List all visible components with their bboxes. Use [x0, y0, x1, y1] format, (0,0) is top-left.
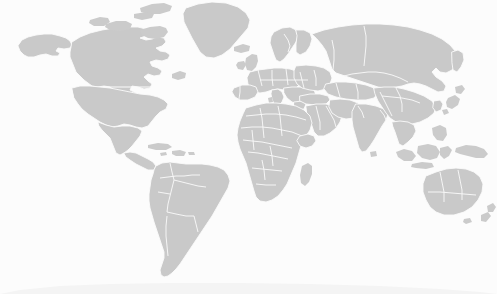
region-turkey	[300, 94, 330, 105]
region-sri-lanka	[370, 151, 377, 157]
world-map-svg	[0, 0, 497, 294]
world-map-figure	[0, 0, 497, 294]
region-iberia	[232, 85, 258, 100]
region-puerto-rico	[188, 152, 195, 155]
